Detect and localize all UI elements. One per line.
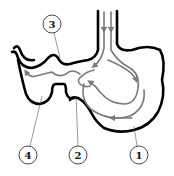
callout-3-label: 3 (49, 19, 56, 30)
callout-3: 3 (43, 15, 61, 33)
callout-4-label: 4 (25, 150, 32, 161)
callout-4: 4 (19, 146, 37, 164)
callout-1-label: 1 (136, 150, 143, 161)
stomach-diagram: 1 2 3 4 (0, 0, 174, 176)
callout-2: 2 (69, 146, 87, 164)
callout-2-label: 2 (75, 150, 82, 161)
callout-1: 1 (130, 146, 148, 164)
